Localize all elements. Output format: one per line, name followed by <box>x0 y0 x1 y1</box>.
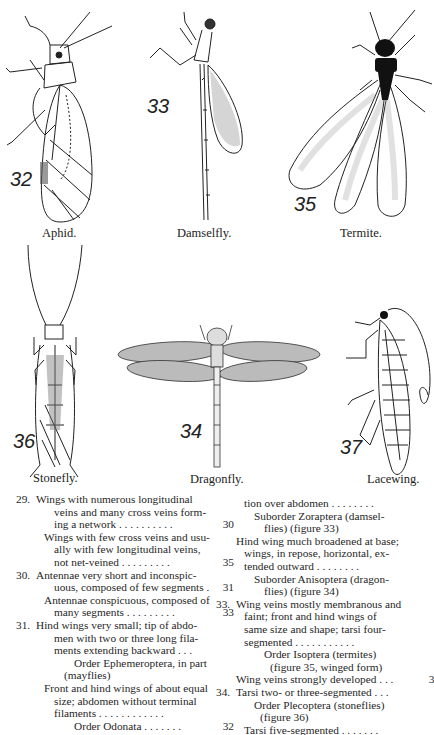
key-line: Tarsi five-segmented . . . . . . . <box>236 724 424 735</box>
couplet-number: 31. <box>16 619 30 632</box>
key-line: same size and shape; tarsi four- <box>236 623 424 636</box>
key-line: Order Isoptera (termites) <box>236 648 424 661</box>
key-line: 31.Hind wings very small; tip of abdo- <box>16 619 212 632</box>
couplet-reference: 35 <box>223 556 234 569</box>
key-line: ally with few longitudinal veins, <box>16 543 212 556</box>
couplet-reference: 34 <box>429 673 434 686</box>
figure-damselfly: 33 Damselfly. <box>130 0 260 240</box>
couplet-number: 33. <box>216 598 230 611</box>
figure-dragonfly: 34 Dragonfly. <box>110 255 340 490</box>
key-line: wings, in repose, horizontal, ex- <box>236 547 424 560</box>
key-line: Order Odonata . . . . . . .32 <box>16 720 212 733</box>
couplet-number: 30. <box>16 569 30 582</box>
couplet-number: 34. <box>216 686 230 699</box>
figure-stonefly: 36 Stonefly. <box>0 245 120 490</box>
key-line: tion over abdomen . . . . . . . . <box>236 497 424 510</box>
key-line: ments extending backward . . . <box>16 644 212 657</box>
key-line: (figure 35, winged form) <box>236 661 424 674</box>
figure-lacewing: 37 Lacewing. <box>330 260 434 490</box>
figure-caption: Stonefly. <box>33 471 78 486</box>
key-line: Antennae conspicuous, composed of <box>16 594 212 607</box>
stonefly-illustration <box>0 245 120 490</box>
figure-number: 32 <box>10 168 32 191</box>
key-line: uous, composed of few segments .31 <box>16 581 212 594</box>
key-line: 29.Wings with numerous longitudinal <box>16 493 212 506</box>
dragonfly-illustration <box>110 255 340 490</box>
couplet-reference: 31 <box>223 581 234 594</box>
termite-illustration <box>260 0 434 240</box>
figure-caption: Lacewing. <box>367 472 419 487</box>
key-column-left: 29.Wings with numerous longitudinal vein… <box>16 493 212 735</box>
couplet-number: 29. <box>16 493 30 506</box>
figure-caption: Dragonfly. <box>190 472 244 487</box>
key-line: men with two or three long fila- <box>16 632 212 645</box>
key-line: (figure 36) <box>236 711 424 724</box>
figure-number: 35 <box>294 193 316 216</box>
key-line: flies) (figure 34) <box>236 585 424 598</box>
key-line: ing a network . . . . . . . . . .30 <box>16 518 212 531</box>
figure-aphid: 32 Aphid. <box>0 0 130 240</box>
key-line: Wing veins strongly developed . . .34 <box>236 673 424 686</box>
key-line: faint; front and hind wings of <box>236 610 424 623</box>
figure-number: 34 <box>180 420 202 443</box>
key-column-right: tion over abdomen . . . . . . . . Subord… <box>236 497 424 735</box>
figure-termite: 35 Termite. <box>260 0 434 240</box>
figure-number: 37 <box>340 436 362 459</box>
key-line: veins and many cross veins form- <box>16 506 212 519</box>
key-line: Suborder Anisoptera (dragon- <box>236 573 424 586</box>
key-line: 30.Antennae very short and inconspic- <box>16 569 212 582</box>
key-line: Order Plecoptera (stoneflies) <box>236 699 424 712</box>
key-line: Suborder Zoraptera (damsel- <box>236 510 424 523</box>
key-line: Wings with few cross veins and usu- <box>16 531 212 544</box>
couplet-reference: 30 <box>223 518 234 531</box>
key-line: filaments . . . . . . . . . . . . <box>16 707 212 720</box>
key-line: Hind wing much broadened at base; <box>236 535 424 548</box>
key-line: 33.Wing veins mostly membranous and <box>236 598 424 611</box>
key-line: many segments . . . . . . . . .33 <box>16 606 212 619</box>
figure-caption: Damselfly. <box>177 226 231 241</box>
key-line: segmented . . . . . . . . . . . <box>236 636 424 649</box>
figure-caption: Aphid. <box>42 226 76 241</box>
couplet-reference: 32 <box>223 720 234 733</box>
figure-number: 36 <box>13 430 35 453</box>
key-line: (mayflies) <box>16 669 212 682</box>
key-line: Order Ephemeroptera, in part <box>16 657 212 670</box>
figure-caption: Termite. <box>340 226 382 241</box>
key-line: not net-veined . . . . . . . . .35 <box>16 556 212 569</box>
aphid-illustration <box>0 0 130 240</box>
key-line: tended outward . . . . . . . . <box>236 560 424 573</box>
key-line: flies) (figure 33) <box>236 522 424 535</box>
key-line: Front and hind wings of about equal <box>16 682 212 695</box>
key-line: size; abdomen without terminal <box>16 695 212 708</box>
figure-number: 33 <box>147 95 169 118</box>
key-line: 34.Tarsi two- or three-segmented . . . <box>236 686 424 699</box>
damselfly-illustration <box>130 0 260 240</box>
